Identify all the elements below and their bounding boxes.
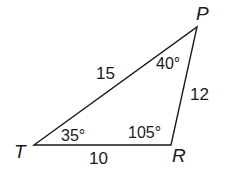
side-length-PR: 12 — [190, 85, 209, 104]
triangle-TRP — [34, 27, 197, 145]
triangle-diagram: T R P 15 12 10 35° 40° 105° — [0, 0, 228, 181]
angle-label-P: 40° — [156, 55, 180, 72]
side-length-TR: 10 — [89, 149, 108, 168]
vertex-label-P: P — [196, 3, 209, 24]
angle-label-T: 35° — [61, 127, 85, 144]
side-length-TP: 15 — [96, 64, 115, 83]
vertex-label-T: T — [14, 141, 27, 162]
angle-label-R: 105° — [128, 124, 161, 141]
vertex-label-R: R — [172, 145, 186, 166]
